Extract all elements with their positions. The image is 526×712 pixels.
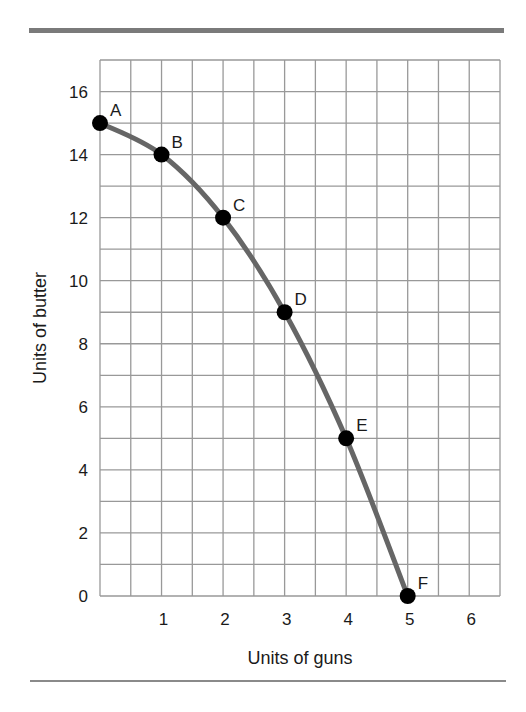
x-axis-ticks: 123456 bbox=[159, 610, 476, 629]
y-tick-label: 4 bbox=[79, 461, 88, 480]
data-point-b bbox=[154, 147, 170, 163]
y-axis-title: Units of butter bbox=[30, 272, 50, 384]
y-axis-ticks: 0246810121416 bbox=[69, 83, 88, 606]
data-point-e bbox=[338, 430, 354, 446]
x-tick-label: 1 bbox=[159, 610, 168, 629]
data-point-d bbox=[277, 304, 293, 320]
bottom-rule bbox=[30, 680, 506, 682]
grid bbox=[100, 60, 500, 596]
data-point-c bbox=[215, 210, 231, 226]
x-tick-label: 3 bbox=[282, 610, 291, 629]
y-tick-label: 8 bbox=[79, 335, 88, 354]
y-tick-label: 16 bbox=[69, 83, 88, 102]
y-tick-label: 10 bbox=[69, 272, 88, 291]
x-tick-label: 4 bbox=[343, 610, 352, 629]
point-label-d: D bbox=[295, 290, 307, 309]
point-label-f: F bbox=[418, 574, 428, 593]
data-point-f bbox=[400, 588, 416, 604]
x-axis-title: Units of guns bbox=[247, 648, 352, 668]
point-label-c: C bbox=[233, 196, 245, 215]
y-tick-label: 0 bbox=[79, 587, 88, 606]
data-points: ABCDEF bbox=[92, 101, 428, 604]
ppf-chart: 0246810121416 123456 ABCDEF Units of gun… bbox=[0, 0, 526, 712]
point-label-b: B bbox=[172, 133, 183, 152]
point-label-e: E bbox=[356, 416, 367, 435]
y-tick-label: 14 bbox=[69, 146, 88, 165]
y-tick-label: 6 bbox=[79, 398, 88, 417]
point-label-a: A bbox=[110, 101, 122, 120]
x-tick-label: 6 bbox=[466, 610, 475, 629]
x-tick-label: 5 bbox=[405, 610, 414, 629]
x-tick-label: 2 bbox=[220, 610, 229, 629]
y-tick-label: 2 bbox=[79, 524, 88, 543]
data-point-a bbox=[92, 115, 108, 131]
y-tick-label: 12 bbox=[69, 209, 88, 228]
